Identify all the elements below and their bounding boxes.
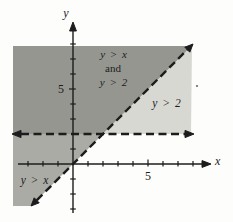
both-region-label-line2: and	[105, 62, 121, 74]
both-region-label-line1: y > x	[99, 48, 128, 60]
x-tick-label-5: 5	[145, 169, 151, 183]
y-gt-2-region-label: y > 2	[151, 97, 181, 110]
x-axis-arrow-icon	[202, 161, 211, 168]
y-tick-label-5: 5	[58, 82, 64, 96]
graph-canvas: 5 x 5 y	[0, 0, 233, 222]
region-y-gt-x-only	[13, 134, 103, 206]
y-axis-arrow-icon	[70, 22, 77, 31]
both-region-label-line3: y > 2	[99, 76, 128, 88]
y-axis-label: y	[62, 6, 69, 20]
stray-print-dot	[196, 85, 198, 87]
inequality-graph-figure: 5 x 5 y	[0, 0, 233, 222]
x-axis-label: x	[214, 154, 221, 168]
y-gt-x-region-label: y > x	[20, 174, 50, 187]
